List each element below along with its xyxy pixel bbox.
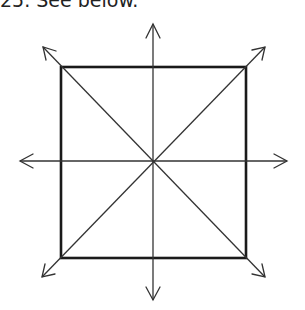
square-diagram — [0, 0, 305, 310]
